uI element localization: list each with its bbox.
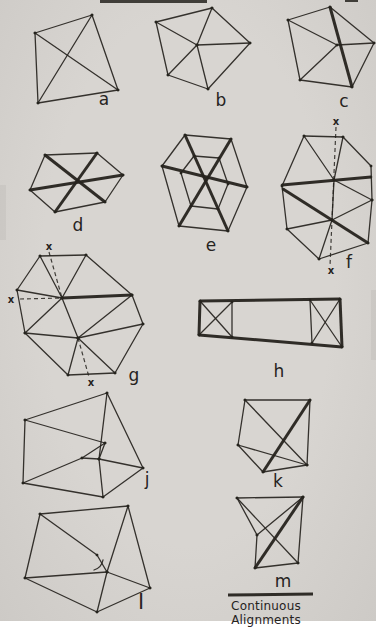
figure-label-h: h	[274, 361, 285, 381]
figure-label-m: m	[275, 571, 292, 591]
axis-mark-f: x	[328, 265, 334, 276]
figure-label-c: c	[339, 91, 348, 111]
axis-mark-f: x	[333, 116, 339, 127]
figure-label-g: g	[129, 365, 140, 385]
legend-caption: Continuous Alignments	[196, 599, 336, 627]
figure-label-e: e	[206, 235, 216, 255]
figure-label-k: k	[273, 471, 283, 491]
figure-label-j: j	[145, 469, 150, 489]
figure-label-a: a	[99, 89, 109, 109]
figure-label-f: f	[346, 252, 352, 272]
figure-label-l: l	[138, 589, 144, 614]
axis-mark-g: x	[46, 241, 52, 252]
figure-label-b: b	[216, 90, 227, 110]
axis-mark-g: x	[8, 294, 14, 305]
figure-label-d: d	[73, 215, 84, 235]
axis-mark-g: x	[88, 377, 94, 388]
